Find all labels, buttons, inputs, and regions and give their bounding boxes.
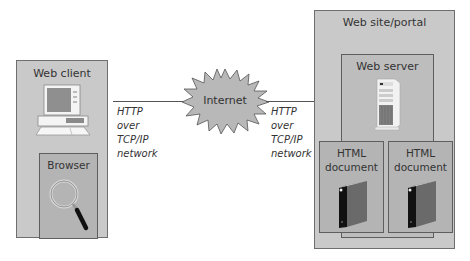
protocol-line: TCP/IP <box>117 133 158 147</box>
html-document-box-2: HTML document <box>388 141 453 233</box>
web-client-box: Web client Browser <box>16 60 108 238</box>
protocol-line: HTTP <box>117 105 158 119</box>
left-protocol-label: HTTP over TCP/IP network <box>117 105 158 161</box>
protocol-line: network <box>117 147 158 161</box>
binder-icon <box>406 180 438 230</box>
internet-label: Internet <box>180 94 270 107</box>
protocol-line: TCP/IP <box>271 133 312 147</box>
protocol-line: over <box>117 119 158 133</box>
protocol-line: over <box>271 119 312 133</box>
right-protocol-label: HTTP over TCP/IP network <box>271 105 312 161</box>
browser-title: Browser <box>40 159 97 171</box>
web-portal-title: Web site/portal <box>315 16 454 29</box>
binder-icon <box>337 180 369 230</box>
html-document-title: HTML document <box>389 146 452 174</box>
tower-server-icon <box>373 77 403 132</box>
html-document-box-1: HTML document <box>319 141 384 233</box>
protocol-line: HTTP <box>271 105 312 119</box>
browser-box: Browser <box>39 153 98 239</box>
html-document-title: HTML document <box>320 146 383 174</box>
protocol-line: network <box>271 147 312 161</box>
web-portal-box: Web site/portal Web server HTML document <box>314 10 455 249</box>
magnifying-glass-icon <box>48 176 92 234</box>
web-client-title: Web client <box>17 67 107 80</box>
left-connection-line <box>113 101 185 102</box>
web-server-title: Web server <box>342 60 433 73</box>
desktop-computer-icon <box>36 85 90 137</box>
